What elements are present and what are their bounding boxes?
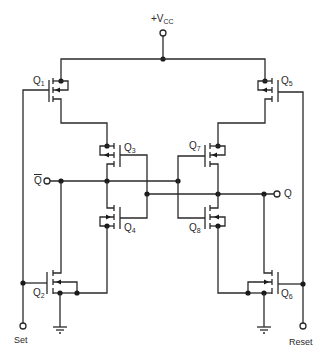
transistor-q5: [218, 78, 303, 323]
q2-sub: 2: [41, 292, 45, 299]
qbar-label: Q: [34, 176, 42, 186]
q4-sub: 4: [132, 227, 136, 234]
transistor-q4: [77, 181, 147, 293]
transistor-q2: [20, 181, 79, 333]
circuit-schematic: [0, 0, 329, 361]
q5-sub: 5: [289, 80, 293, 87]
set-label: Set: [14, 336, 28, 345]
q8-label: Q8: [189, 223, 201, 234]
q2-letter: Q: [33, 287, 41, 298]
q3-label: Q3: [124, 143, 136, 154]
transistor-q7: [178, 143, 225, 194]
schematic-diagram: +VCC Q1 Q2 Q3 Q4 Q5 Q6 Q7 Q8 Q Q Set Res…: [0, 0, 329, 361]
q5-label: Q5: [281, 76, 293, 87]
vcc-prefix: +V: [151, 13, 164, 24]
reset-terminal: [300, 323, 306, 329]
set-terminal: [20, 323, 26, 329]
reset-label: Reset: [289, 338, 313, 347]
q2-label: Q2: [33, 288, 45, 299]
transistor-q6: [245, 194, 305, 333]
vcc-terminal: [160, 30, 166, 36]
q7-sub: 7: [197, 145, 201, 152]
q-terminal: [274, 191, 280, 197]
q3-letter: Q: [124, 142, 132, 153]
vcc-label: +VCC: [151, 14, 174, 25]
q6-sub: 6: [289, 293, 293, 300]
q6-label: Q6: [281, 289, 293, 300]
q8-letter: Q: [189, 222, 197, 233]
q7-label: Q7: [189, 141, 201, 152]
q1-sub: 1: [41, 80, 45, 87]
q7-letter: Q: [189, 140, 197, 151]
q3-sub: 3: [132, 147, 136, 154]
q1-letter: Q: [33, 75, 41, 86]
q-label: Q: [284, 189, 292, 199]
q5-letter: Q: [281, 75, 289, 86]
qbar-terminal: [44, 178, 50, 184]
q4-label: Q4: [124, 223, 136, 234]
transistor-q8: [178, 181, 248, 293]
vcc-sub: CC: [164, 18, 174, 25]
q6-letter: Q: [281, 288, 289, 299]
q8-sub: 8: [197, 227, 201, 234]
q4-letter: Q: [124, 222, 132, 233]
q1-label: Q1: [33, 76, 45, 87]
